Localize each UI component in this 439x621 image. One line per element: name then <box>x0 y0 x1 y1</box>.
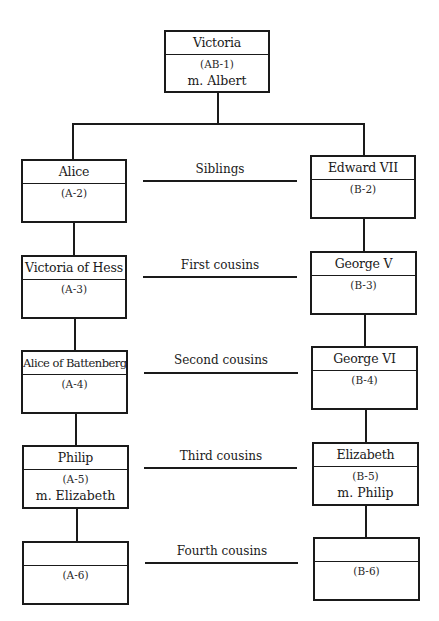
relationship-line-third-cousins <box>144 467 297 469</box>
person-code: (AB-1) <box>166 56 268 72</box>
person-box-b3: George V (B-3) <box>310 251 417 315</box>
descent-line-a5-a6 <box>76 509 78 541</box>
person-spouse: m. Albert <box>166 72 268 90</box>
relationship-line-siblings <box>143 180 297 182</box>
descent-line-b5-b6 <box>365 506 367 538</box>
person-code: (B-5) <box>314 468 417 484</box>
person-spouse: m. Elizabeth <box>24 487 127 505</box>
person-name: Elizabeth <box>314 444 417 467</box>
relationship-line-first-cousins <box>143 276 297 278</box>
relationship-label-siblings: Siblings <box>140 162 300 176</box>
descent-line-a2-a3 <box>73 223 75 255</box>
person-code: (B-2) <box>312 181 414 197</box>
branch-horizontal-line <box>72 123 365 125</box>
relationship-line-fourth-cousins <box>145 562 298 564</box>
root-stem-line <box>217 93 219 125</box>
person-box-a3: Victoria of Hess (A-3) <box>21 255 127 319</box>
person-box-b4: George VI (B-4) <box>311 346 418 410</box>
person-box-b2: Edward VII (B-2) <box>310 155 416 219</box>
person-code: (A-3) <box>23 281 125 297</box>
person-code: (A-4) <box>23 376 126 392</box>
person-name: Alice of Battenberg <box>23 352 126 375</box>
person-code: (B-4) <box>313 372 416 388</box>
person-name <box>24 543 127 566</box>
person-box-victoria-root: Victoria (AB-1) m. Albert <box>164 30 270 93</box>
person-name: George VI <box>313 348 416 371</box>
person-name: Edward VII <box>312 157 414 180</box>
person-box-a2: Alice (A-2) <box>21 159 127 223</box>
person-box-a4: Alice of Battenberg (A-4) <box>21 350 128 414</box>
branch-left-drop-line <box>72 123 74 159</box>
person-code: (A-5) <box>24 471 127 487</box>
person-code: (A-2) <box>23 185 125 201</box>
descent-line-a4-a5 <box>75 414 77 445</box>
person-name: Philip <box>24 447 127 470</box>
person-name: Victoria of Hess <box>23 257 125 280</box>
person-code: (A-6) <box>24 567 127 583</box>
relationship-label-second-cousins: Second cousins <box>141 353 301 367</box>
branch-right-drop-line <box>363 123 365 155</box>
relationship-line-second-cousins <box>144 372 298 374</box>
person-box-b6: (B-6) <box>313 537 420 601</box>
person-spouse: m. Philip <box>314 484 417 502</box>
person-name: Alice <box>23 161 125 184</box>
relationship-label-first-cousins: First cousins <box>140 258 300 272</box>
person-name: Victoria <box>166 32 268 55</box>
person-code: (B-3) <box>312 277 415 293</box>
descent-line-a3-a4 <box>74 319 76 350</box>
person-box-a5: Philip (A-5) m. Elizabeth <box>22 445 129 509</box>
person-name: George V <box>312 253 415 276</box>
relationship-label-third-cousins: Third cousins <box>141 449 301 463</box>
descent-line-b4-b5 <box>365 410 367 442</box>
relationship-label-fourth-cousins: Fourth cousins <box>142 544 302 558</box>
descent-line-b2-b3 <box>363 219 365 251</box>
person-box-a6: (A-6) <box>22 541 129 605</box>
descent-line-b3-b4 <box>364 315 366 347</box>
person-name <box>315 539 418 562</box>
person-code: (B-6) <box>315 563 418 579</box>
person-box-b5: Elizabeth (B-5) m. Philip <box>312 442 419 506</box>
